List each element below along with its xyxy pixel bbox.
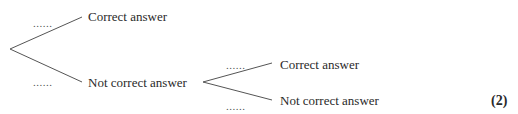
outcome-label-not-correct: Not correct answer bbox=[88, 76, 187, 89]
branch-line-2-bottom bbox=[203, 82, 272, 100]
outcome-label-correct-2: Correct answer bbox=[280, 58, 359, 71]
outcome-label-correct: Correct answer bbox=[88, 10, 167, 23]
probability-blank-2-top[interactable]: ...... bbox=[226, 60, 246, 71]
probability-blank-1-top[interactable]: ...... bbox=[33, 18, 53, 29]
probability-blank-1-bottom[interactable]: ...... bbox=[33, 77, 53, 88]
tree-branches bbox=[0, 0, 518, 114]
outcome-label-not-correct-2: Not correct answer bbox=[280, 94, 379, 107]
probability-blank-2-bottom[interactable]: ...... bbox=[226, 101, 246, 112]
marks-indicator: (2) bbox=[491, 94, 507, 108]
